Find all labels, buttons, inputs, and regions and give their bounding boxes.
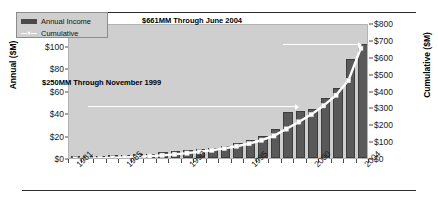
x-tick-mark xyxy=(68,159,69,163)
x-tick-mark xyxy=(156,159,157,163)
cumulative-marker xyxy=(284,127,288,131)
x-tick-mark xyxy=(356,159,357,163)
legend-item-annual-income: Annual Income xyxy=(21,16,103,26)
cumulative-marker xyxy=(297,120,301,124)
cumulative-marker xyxy=(148,154,152,158)
cumulative-polyline xyxy=(75,48,361,159)
right-y-tick-mark xyxy=(369,74,373,75)
cumulative-marker xyxy=(234,144,238,148)
left-y-tick-label: $100 xyxy=(22,42,64,52)
annotation-661mm: $661MM Through June 2004 xyxy=(142,16,242,25)
right-y-tick-label: $400 xyxy=(374,87,416,97)
right-y-tick-mark xyxy=(369,24,373,25)
cumulative-marker xyxy=(98,156,102,159)
right-y-tick-label: $500 xyxy=(374,70,416,80)
cumulative-marker xyxy=(222,146,226,150)
left-y-tick-label: $20 xyxy=(22,132,64,142)
right-y-tick-label: $200 xyxy=(374,120,416,130)
left-y-tick-label: $80 xyxy=(22,64,64,74)
x-tick-mark xyxy=(168,159,169,163)
annotation-leader-line xyxy=(88,106,295,107)
left-y-tick-label: $40 xyxy=(22,109,64,119)
right-y-tick-mark xyxy=(369,40,373,41)
x-tick-mark xyxy=(143,159,144,163)
cumulative-marker xyxy=(334,93,338,97)
right-y-tick-label: $800 xyxy=(374,19,416,29)
right-y-tick-mark xyxy=(369,142,373,143)
x-tick-mark xyxy=(243,159,244,163)
chart-figure: $0$20$40$60$80$100$120 Annual ($M) $0$10… xyxy=(0,0,438,202)
left-y-axis: $0$20$40$60$80$100$120 xyxy=(18,24,64,159)
right-y-tick-label: $700 xyxy=(374,36,416,46)
legend-label-cumulative: Cumulative xyxy=(41,29,79,38)
cumulative-marker xyxy=(110,156,114,159)
right-y-tick-mark xyxy=(369,108,373,109)
x-tick-mark xyxy=(293,159,294,163)
annotation-leader-line xyxy=(283,44,358,45)
cumulative-marker xyxy=(172,152,176,156)
right-y-tick-label: $600 xyxy=(374,53,416,63)
x-tick-mark xyxy=(306,159,307,163)
bar-swatch-icon xyxy=(21,19,37,24)
annotation-arrowhead xyxy=(295,104,299,110)
x-tick-mark xyxy=(93,159,94,163)
right-y-tick-label: $300 xyxy=(374,103,416,113)
left-y-tick-label: $0 xyxy=(22,154,64,164)
right-y-tick-mark xyxy=(369,91,373,92)
right-y-tick-label: $100 xyxy=(374,137,416,147)
right-y-axis: $0$100$200$300$400$500$600$700$800 xyxy=(370,24,416,159)
cumulative-marker xyxy=(160,153,164,157)
right-y-tick-mark xyxy=(369,125,373,126)
x-tick-mark xyxy=(218,159,219,163)
cumulative-marker xyxy=(272,134,276,138)
x-tick-mark xyxy=(343,159,344,163)
chart-legend: Annual Income Cumulative xyxy=(16,12,108,38)
x-tick-mark xyxy=(181,159,182,163)
cumulative-marker xyxy=(321,104,325,108)
right-y-axis-title: Cumulative ($M) xyxy=(422,20,432,110)
cumulative-marker xyxy=(259,138,263,142)
cumulative-marker xyxy=(247,141,251,145)
x-tick-mark xyxy=(281,159,282,163)
annotation-250mm: $250MM Through November 1999 xyxy=(42,78,161,87)
x-tick-mark xyxy=(118,159,119,163)
legend-label-annual-income: Annual Income xyxy=(41,17,91,26)
x-tick-mark xyxy=(206,159,207,163)
x-tick-mark xyxy=(231,159,232,163)
x-tick-mark xyxy=(268,159,269,163)
bottom-divider-rule xyxy=(22,190,416,191)
cumulative-line xyxy=(69,25,367,159)
x-tick-mark xyxy=(106,159,107,163)
legend-item-cumulative: Cumulative xyxy=(21,28,103,38)
line-swatch-icon xyxy=(21,31,37,36)
annotation-arrowhead xyxy=(358,42,362,48)
x-tick-mark xyxy=(331,159,332,163)
cumulative-marker xyxy=(346,78,350,82)
cumulative-marker xyxy=(309,112,313,116)
left-y-tick-label: $60 xyxy=(22,87,64,97)
cumulative-marker xyxy=(210,148,214,152)
right-y-tick-mark xyxy=(369,57,373,58)
cumulative-marker xyxy=(185,151,189,155)
